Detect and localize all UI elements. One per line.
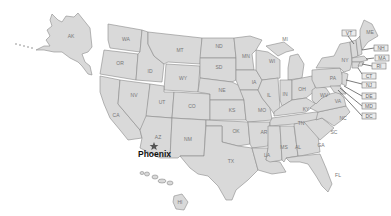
svg-text:MS: MS xyxy=(280,144,288,150)
state-ar[interactable] xyxy=(248,122,270,148)
svg-text:KS: KS xyxy=(229,107,236,113)
state-nj[interactable] xyxy=(342,72,348,86)
svg-text:KY: KY xyxy=(303,106,310,112)
svg-text:VT: VT xyxy=(346,30,352,36)
svg-text:DE: DE xyxy=(366,93,374,99)
svg-text:SD: SD xyxy=(216,64,223,70)
state-ak[interactable]: AK xyxy=(15,13,92,75)
svg-text:ND: ND xyxy=(215,43,223,49)
svg-text:CT: CT xyxy=(366,73,373,79)
svg-text:VA: VA xyxy=(335,98,342,104)
svg-text:ME: ME xyxy=(366,29,374,35)
svg-text:NM: NM xyxy=(184,136,192,142)
svg-text:OK: OK xyxy=(232,128,240,134)
state-mi-lower[interactable] xyxy=(288,54,304,80)
svg-text:MO: MO xyxy=(258,107,266,113)
svg-text:OR: OR xyxy=(116,60,124,66)
label-hi: HI xyxy=(178,199,183,205)
svg-text:IL: IL xyxy=(267,92,271,98)
svg-text:GA: GA xyxy=(317,142,325,148)
svg-text:MD: MD xyxy=(365,103,373,109)
svg-text:AZ: AZ xyxy=(155,134,161,140)
svg-text:MN: MN xyxy=(242,53,250,59)
svg-text:NY: NY xyxy=(342,57,350,63)
svg-text:MA: MA xyxy=(378,55,386,61)
svg-text:NJ: NJ xyxy=(366,82,373,88)
svg-text:WI: WI xyxy=(269,58,275,64)
svg-text:IA: IA xyxy=(252,79,257,85)
svg-text:AL: AL xyxy=(295,144,301,150)
state-fl[interactable] xyxy=(286,154,332,192)
svg-text:ID: ID xyxy=(148,68,153,74)
svg-text:WA: WA xyxy=(122,36,131,42)
state-hi[interactable]: HI xyxy=(140,172,188,211)
svg-text:PA: PA xyxy=(330,75,337,81)
svg-text:FL: FL xyxy=(335,172,341,178)
svg-text:TX: TX xyxy=(228,158,235,164)
svg-text:OH: OH xyxy=(298,86,306,92)
svg-text:NH: NH xyxy=(377,45,385,51)
svg-text:WV: WV xyxy=(320,92,329,98)
svg-text:WY: WY xyxy=(179,75,188,81)
svg-text:NV: NV xyxy=(131,92,139,98)
svg-text:MT: MT xyxy=(176,47,183,53)
svg-text:TN: TN xyxy=(298,120,305,126)
svg-text:CO: CO xyxy=(188,103,196,109)
svg-text:NC: NC xyxy=(339,115,347,121)
svg-text:CA: CA xyxy=(113,112,121,118)
state-pa[interactable] xyxy=(312,68,344,88)
svg-text:SC: SC xyxy=(331,129,338,135)
svg-text:IN: IN xyxy=(283,91,288,97)
label-ak: AK xyxy=(68,33,75,39)
svg-text:AR: AR xyxy=(261,129,268,135)
us-map: AK HI xyxy=(0,0,391,216)
svg-text:LA: LA xyxy=(264,152,271,158)
svg-text:NE: NE xyxy=(219,87,227,93)
svg-text:UT: UT xyxy=(159,99,166,105)
svg-text:MI: MI xyxy=(282,36,288,42)
city-label-phoenix: Phoenix xyxy=(138,149,171,159)
svg-text:RI: RI xyxy=(377,63,382,69)
svg-text:DC: DC xyxy=(365,113,373,119)
